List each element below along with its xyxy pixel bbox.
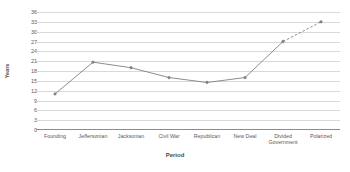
x-axis-tick-label: Divided Government: [264, 133, 302, 146]
y-axis-tick-label: 21: [13, 58, 37, 64]
series-line: [36, 12, 340, 130]
y-axis-tick-label: 33: [13, 19, 37, 25]
line-chart: Years 3633302724211815129630 FoundingJef…: [0, 0, 350, 172]
y-axis-tick-label: 36: [13, 9, 37, 15]
data-point-marker: [129, 66, 133, 70]
series-segment-solid: [55, 42, 283, 94]
y-axis-title-label: Years: [4, 64, 10, 79]
x-axis-tick-label: Republican: [188, 133, 226, 139]
data-point-marker: [167, 76, 171, 80]
x-axis-tick-label: Jacksonian: [112, 133, 150, 139]
y-axis-tick-label: 30: [13, 29, 37, 35]
x-axis-tick-label: New Deal: [226, 133, 264, 139]
x-axis-title: Period: [0, 152, 350, 158]
y-axis-tick-label: 6: [13, 107, 37, 113]
y-axis-tick-label: 27: [13, 39, 37, 45]
series-segment-dashed: [283, 22, 321, 42]
x-axis-tick-label: Polarized: [302, 133, 340, 139]
y-axis-tick-label: 12: [13, 88, 37, 94]
y-axis-tick-label: 24: [13, 48, 37, 54]
y-axis-tick-label: 9: [13, 98, 37, 104]
y-axis-tick-label: 15: [13, 78, 37, 84]
y-axis-tick-label: 0: [13, 127, 37, 133]
data-point-marker: [205, 81, 209, 85]
y-axis-tick-label: 18: [13, 68, 37, 74]
x-axis-tick-label: Founding: [36, 133, 74, 139]
plot-area: [36, 12, 340, 130]
x-axis-tick-label: Civil War: [150, 133, 188, 139]
y-axis-title: Years: [1, 12, 13, 130]
y-axis-tick-label: 3: [13, 117, 37, 123]
x-axis-tick-label: Jeffersonian: [74, 133, 112, 139]
data-point-marker: [319, 20, 323, 24]
